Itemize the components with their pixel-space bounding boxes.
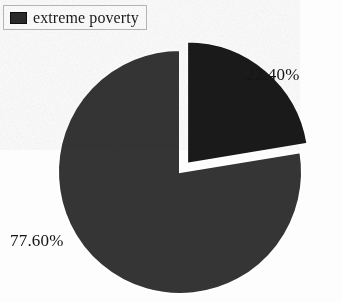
slice-value-label-minor: 22.40%: [246, 66, 300, 83]
chart-legend: extreme poverty: [3, 5, 147, 30]
slice-value-label-major: 77.60%: [10, 232, 64, 249]
legend-label-extreme-poverty: extreme poverty: [33, 10, 139, 26]
pie-chart-plot: [0, 0, 342, 302]
legend-swatch-extreme-poverty: [10, 12, 27, 24]
pie-chart-figure: extreme poverty 77.60% 22.40%: [0, 0, 342, 302]
pie-slice-minor: [187, 42, 307, 164]
